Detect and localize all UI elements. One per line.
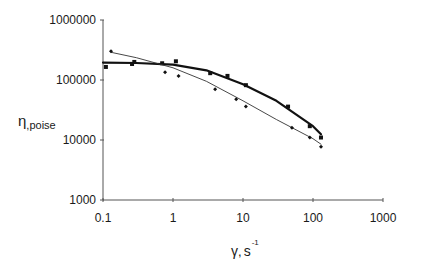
x-axis-exponent: -1	[252, 238, 260, 247]
y-tick-label: 100000	[56, 73, 96, 87]
y-tick-label: 1000000	[49, 13, 96, 27]
series-square	[103, 59, 323, 139]
square-marker	[174, 59, 178, 63]
square-marker	[132, 60, 136, 64]
square-marker	[225, 74, 229, 78]
diamond-marker	[319, 145, 323, 149]
diamond-marker	[244, 105, 248, 109]
x-tick-label: 1000	[370, 211, 397, 225]
x-tick-label: 10	[236, 211, 250, 225]
square-marker	[308, 124, 312, 128]
y-tick-label: 1000	[69, 193, 96, 207]
diamond-marker	[163, 70, 167, 74]
x-tick-label: 100	[303, 211, 323, 225]
x-axis-symbol: γ	[231, 243, 238, 259]
square-marker	[244, 83, 248, 87]
x-axis-unit: s	[244, 243, 251, 259]
x-axis-sep: ,	[238, 244, 242, 259]
square-marker	[208, 71, 212, 75]
diamond-marker	[213, 87, 217, 91]
y-axis-unit: ,poise	[26, 119, 55, 131]
y-axis-symbol: η	[18, 112, 26, 129]
x-axis: 0.11101001000	[95, 198, 397, 225]
x-tick-label: 1	[170, 211, 177, 225]
x-axis-label: γ,s-1	[231, 238, 259, 259]
series-layer	[103, 49, 323, 148]
diamond-marker	[177, 74, 181, 78]
y-axis-label: η,poise	[18, 112, 56, 131]
square-marker	[104, 65, 108, 69]
square-marker	[286, 105, 290, 109]
y-axis: 1000100001000001000000	[49, 13, 104, 207]
diamond-marker	[290, 126, 294, 130]
y-tick-label: 10000	[63, 133, 97, 147]
square-marker	[319, 136, 323, 140]
viscosity-vs-shear-rate-chart: 1000100001000001000000 0.11101001000 η,p…	[0, 0, 421, 271]
thin-fit-line	[111, 52, 321, 144]
x-tick-label: 0.1	[95, 211, 112, 225]
